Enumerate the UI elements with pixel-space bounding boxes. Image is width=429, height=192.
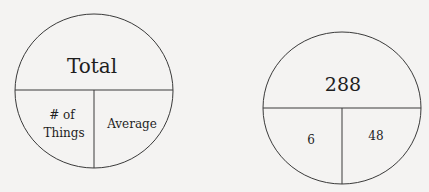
- average-value: 48: [368, 129, 383, 143]
- total-value: 288: [325, 73, 361, 95]
- example-circle: 288 6 48: [263, 32, 421, 184]
- count-value: 6: [307, 133, 315, 147]
- count-label-line1: # of: [49, 108, 76, 122]
- count-label-line2: Things: [43, 126, 84, 140]
- average-label: Average: [106, 117, 157, 131]
- template-circle: Total # of Things Average: [15, 14, 173, 168]
- diagram-canvas: Total # of Things Average 288 6 48: [0, 0, 429, 192]
- total-label: Total: [67, 54, 117, 78]
